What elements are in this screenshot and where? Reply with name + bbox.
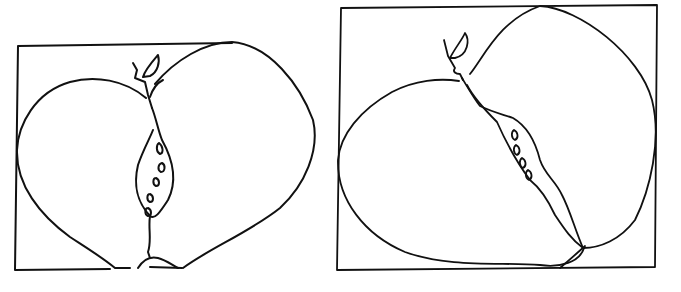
pear-bottom bbox=[560, 246, 585, 268]
pear-leaf-icon bbox=[450, 33, 468, 58]
apple-stem bbox=[133, 63, 152, 108]
pear-body-right bbox=[470, 6, 656, 248]
pear-drawing bbox=[337, 5, 657, 270]
apple-bottom-stem bbox=[148, 216, 150, 258]
apple-body-right bbox=[155, 42, 315, 268]
pear-frame bbox=[337, 5, 657, 270]
apple-seeds bbox=[145, 143, 164, 216]
apple-body-left bbox=[17, 79, 146, 268]
pear-stem bbox=[444, 40, 463, 80]
apple-core bbox=[136, 108, 173, 217]
drawing-canvas bbox=[0, 0, 681, 292]
pear-seeds bbox=[512, 130, 532, 180]
apple-leaf-icon bbox=[143, 55, 159, 77]
apple-frame bbox=[15, 43, 232, 270]
illustration bbox=[0, 0, 681, 292]
apple-drawing bbox=[15, 42, 315, 270]
